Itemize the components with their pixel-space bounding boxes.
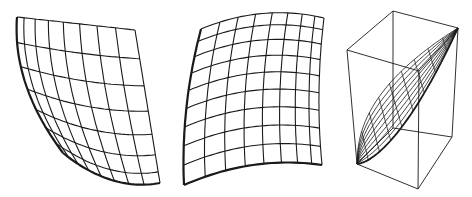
mesh-line [418,71,419,189]
pillow-distorted-grid [184,13,325,185]
mesh-line [452,28,458,137]
mesh-line [116,28,145,185]
mesh-line [63,153,160,185]
mesh-line [280,13,288,163]
mesh-line [36,110,152,135]
3d-box-surface-mesh [347,11,458,189]
mesh-line [347,50,357,164]
mesh-line [262,13,272,164]
warped-mesh-diagram [0,0,472,197]
mesh-line [309,16,315,164]
skewed-curved-grid [17,17,160,185]
mesh-line [97,26,129,184]
figure-canvas [0,0,472,197]
mesh-line [80,24,115,181]
mesh-line [295,14,302,163]
mesh-line [319,18,324,165]
mesh-line [63,22,101,176]
